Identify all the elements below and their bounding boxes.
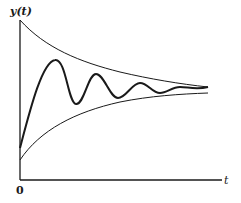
y-axis-label: y(t): [10, 6, 32, 17]
t-axis-label: t: [224, 175, 228, 186]
response-curve: [20, 60, 208, 148]
diagram: y(t) 0 t: [0, 0, 241, 203]
plot-area: [0, 0, 241, 203]
upper-envelope-curve: [20, 20, 208, 87]
origin-label: 0: [16, 185, 24, 196]
lower-envelope-curve: [20, 93, 208, 160]
